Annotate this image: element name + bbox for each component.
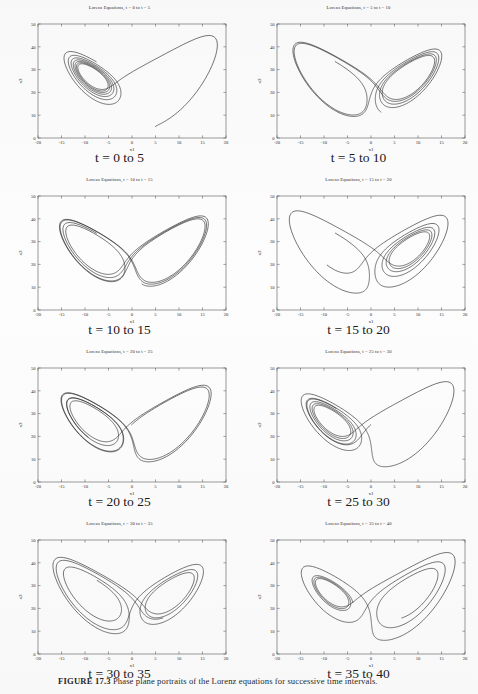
x-tick-label: -5: [107, 312, 112, 317]
x-tick-label: 0: [370, 484, 373, 489]
y-tick-label: 20: [31, 434, 36, 439]
y-axis-label: x3: [18, 422, 23, 428]
x-axis-label: x1: [369, 491, 375, 496]
x-tick-label: -10: [82, 656, 89, 661]
x-axis-label: x1: [369, 319, 375, 324]
figure-caption: FIGURE 17.3 Phase plane portraits of the…: [0, 676, 478, 694]
x-tick-label: 0: [131, 656, 134, 661]
figure-caption-label: FIGURE 17.3: [58, 676, 111, 686]
y-axis-label: x3: [257, 594, 262, 600]
x-axis-label: x1: [130, 147, 136, 152]
panel-caption: t = 25 to 30: [239, 494, 478, 510]
phase-plot-svg: -20-15-10-50510152001020304050x1x3: [0, 520, 239, 668]
trajectory-path: [289, 211, 448, 293]
x-tick-label: -5: [107, 140, 112, 145]
lorenz-panel: Lorenz Equations, t = 20 to t = 25-20-15…: [0, 348, 239, 510]
y-tick-label: 30: [31, 67, 36, 72]
trajectory-path: [301, 382, 454, 467]
lorenz-panel: Lorenz Equations, t = 5 to t = 10-20-15-…: [239, 4, 478, 166]
y-tick-label: 30: [270, 67, 275, 72]
y-tick-label: 10: [270, 113, 275, 118]
x-tick-label: 0: [370, 656, 373, 661]
x-tick-label: 0: [370, 140, 373, 145]
y-tick-label: 50: [270, 538, 275, 543]
x-tick-label: 0: [131, 312, 134, 317]
x-tick-label: 5: [393, 656, 396, 661]
panel-caption: t = 0 to 5: [0, 150, 239, 166]
x-tick-label: 20: [463, 656, 468, 661]
y-tick-label: 50: [270, 366, 275, 371]
x-tick-label: 10: [177, 140, 182, 145]
plot-area: Lorenz Equations, t = 30 to t = 35-20-15…: [0, 520, 239, 668]
x-tick-label: 20: [224, 140, 229, 145]
x-tick-label: -10: [321, 140, 328, 145]
x-tick-label: 15: [439, 312, 444, 317]
x-tick-label: 20: [463, 140, 468, 145]
y-tick-label: 10: [31, 285, 36, 290]
y-tick-label: 30: [31, 411, 36, 416]
y-tick-label: 10: [270, 457, 275, 462]
x-tick-label: 5: [393, 312, 396, 317]
phase-plot-svg: -20-15-10-50510152001020304050x1x3: [239, 520, 478, 668]
x-tick-label: -10: [82, 312, 89, 317]
plot-area: Lorenz Equations, t = 15 to t = 20-20-15…: [239, 176, 478, 324]
y-tick-label: 50: [31, 366, 36, 371]
x-tick-label: 10: [177, 312, 182, 317]
y-axis-label: x3: [257, 422, 262, 428]
x-tick-label: -15: [58, 656, 65, 661]
x-tick-label: 10: [177, 656, 182, 661]
phase-plot-svg: -20-15-10-50510152001020304050x1x3: [0, 4, 239, 152]
x-tick-label: 15: [200, 484, 205, 489]
y-tick-label: 20: [270, 434, 275, 439]
x-tick-label: 20: [463, 484, 468, 489]
plot-area: Lorenz Equations, t = 35 to t = 40-20-15…: [239, 520, 478, 668]
x-tick-label: 10: [177, 484, 182, 489]
y-axis-label: x3: [18, 78, 23, 84]
x-axis-label: x1: [130, 491, 136, 496]
y-tick-label: 40: [270, 217, 275, 222]
phase-plot-svg: -20-15-10-50510152001020304050x1x3: [239, 176, 478, 324]
y-tick-label: 10: [31, 629, 36, 634]
panel-caption: t = 10 to 15: [0, 322, 239, 338]
x-tick-label: 5: [154, 140, 157, 145]
lorenz-panel: Lorenz Equations, t = 25 to t = 30-20-15…: [239, 348, 478, 510]
lorenz-panel: Lorenz Equations, t = 0 to t = 5-20-15-1…: [0, 4, 239, 166]
x-tick-label: -20: [274, 484, 281, 489]
lorenz-panel: Lorenz Equations, t = 35 to t = 40-20-15…: [239, 520, 478, 682]
plot-area: Lorenz Equations, t = 5 to t = 10-20-15-…: [239, 4, 478, 152]
panel-caption: t = 20 to 25: [0, 494, 239, 510]
x-tick-label: -15: [58, 312, 65, 317]
x-tick-label: 5: [154, 312, 157, 317]
x-tick-label: 5: [393, 484, 396, 489]
x-tick-label: 20: [224, 312, 229, 317]
figure-caption-text: Phase plane portraits of the Lorenz equa…: [113, 676, 378, 686]
x-tick-label: 5: [154, 484, 157, 489]
y-tick-label: 40: [31, 561, 36, 566]
y-tick-label: 50: [31, 22, 36, 27]
y-tick-label: 40: [270, 389, 275, 394]
x-axis-label: x1: [369, 663, 375, 668]
y-tick-label: 30: [270, 583, 275, 588]
y-tick-label: 10: [31, 113, 36, 118]
trajectory-path: [59, 216, 208, 286]
x-tick-label: 0: [131, 484, 134, 489]
x-tick-label: 10: [416, 484, 421, 489]
y-tick-label: 50: [270, 194, 275, 199]
x-tick-label: -15: [297, 312, 304, 317]
x-tick-label: 5: [154, 656, 157, 661]
x-tick-label: 15: [200, 312, 205, 317]
x-tick-label: -5: [346, 140, 351, 145]
x-tick-label: -5: [346, 656, 351, 661]
y-axis-label: x3: [257, 78, 262, 84]
lorenz-panel: Lorenz Equations, t = 15 to t = 20-20-15…: [239, 176, 478, 338]
x-tick-label: 0: [370, 312, 373, 317]
x-tick-label: 5: [393, 140, 396, 145]
x-tick-label: -15: [297, 484, 304, 489]
y-tick-label: 10: [31, 457, 36, 462]
y-tick-label: 40: [270, 561, 275, 566]
lorenz-panel: Lorenz Equations, t = 30 to t = 35-20-15…: [0, 520, 239, 682]
y-tick-label: 40: [270, 45, 275, 50]
x-tick-label: -20: [274, 656, 281, 661]
y-axis-label: x3: [18, 594, 23, 600]
trajectory-path: [301, 553, 455, 641]
